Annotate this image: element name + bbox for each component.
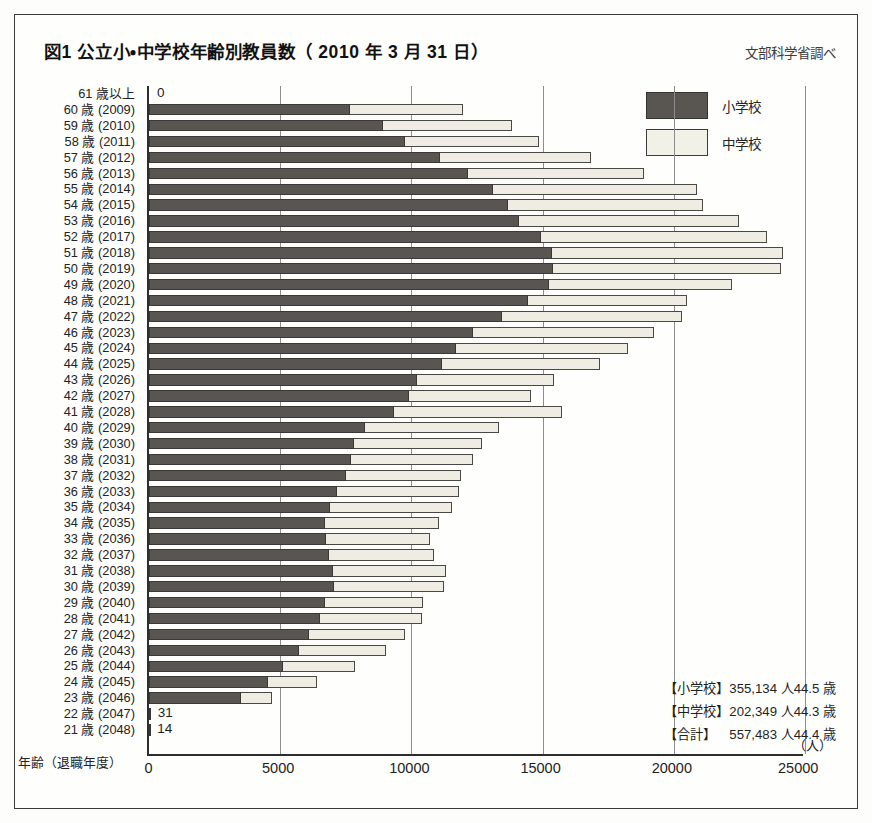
bar-row	[149, 563, 805, 579]
y-axis-label-11: 50 歳 (2019)	[64, 261, 135, 277]
y-axis-label-35: 26 歳 (2043)	[64, 643, 135, 659]
bar-segment-elementary	[149, 676, 268, 687]
y-axis-label-36: 25 歳 (2044)	[64, 658, 135, 674]
y-axis-label-39: 22 歳 (2047)	[64, 706, 135, 722]
bar-segment-elementary	[149, 263, 553, 274]
bar-row	[149, 261, 805, 277]
y-axis-caption: 年齢（退職年度）	[18, 752, 122, 771]
y-axis-label-33: 28 歳 (2041)	[64, 611, 135, 627]
bar-row	[149, 134, 805, 150]
bar-segment-elementary	[149, 311, 502, 322]
y-axis-label-16: 45 歳 (2024)	[64, 340, 135, 356]
y-axis-label-30: 31 歳 (2038)	[64, 563, 135, 579]
bar-row	[149, 245, 805, 261]
bar-row	[149, 531, 805, 547]
bar-value-label: 31	[158, 705, 173, 720]
summary-count: 202,349 人	[729, 699, 793, 722]
y-axis-label-15: 46 歳 (2023)	[64, 325, 135, 341]
y-axis-label-26: 35 歳 (2034)	[64, 499, 135, 515]
y-axis-label-19: 42 歳 (2027)	[64, 388, 135, 404]
bar-row	[149, 658, 805, 674]
bar-segment-elementary	[149, 390, 409, 401]
bar-segment-elementary	[149, 374, 417, 385]
y-axis-label-32: 29 歳 (2040)	[64, 595, 135, 611]
bar-row	[149, 547, 805, 563]
bar-value-label: 14	[157, 721, 172, 736]
bar-segment-elementary	[149, 708, 151, 719]
bar-segment-elementary	[149, 470, 346, 481]
bar-segment-elementary	[149, 692, 241, 703]
y-axis-label-37: 24 歳 (2045)	[64, 674, 135, 690]
x-tick-label-5000: 5000	[262, 760, 294, 776]
bar-row	[149, 468, 805, 484]
summary-box: 【小学校】355,134 人44.5 歳【中学校】202,349 人44.3 歳…	[664, 676, 836, 745]
y-axis-label-3: 58 歳 (2011)	[65, 134, 135, 150]
summary-count: 355,134 人	[729, 676, 793, 699]
x-tick-label-0: 0	[145, 760, 153, 776]
bar-row	[149, 181, 805, 197]
bar-segment-elementary	[149, 327, 473, 338]
bar-segment-elementary	[149, 581, 334, 592]
bar-segment-elementary	[149, 613, 320, 624]
bar-segment-elementary	[149, 629, 309, 640]
bar-row	[149, 643, 805, 659]
y-axis-label-24: 37 歳 (2032)	[64, 468, 135, 484]
bar-segment-elementary	[149, 549, 329, 560]
summary-average-age: 44.5 歳	[794, 676, 836, 699]
bar-row	[149, 627, 805, 643]
bar-segment-elementary	[149, 438, 354, 449]
y-axis-label-13: 48 歳 (2021)	[64, 293, 135, 309]
bar-segment-elementary	[149, 136, 405, 147]
y-axis-label-18: 43 歳 (2026)	[64, 372, 135, 388]
bar-segment-elementary	[149, 184, 493, 195]
y-axis-label-31: 30 歳 (2039)	[64, 579, 135, 595]
bar-row	[149, 452, 805, 468]
summary-count: 557,483 人	[729, 722, 793, 745]
bar-segment-elementary	[149, 517, 325, 528]
bar-segment-elementary	[149, 597, 325, 608]
x-tick-label-25000: 25000	[778, 760, 818, 776]
bar-row	[149, 197, 805, 213]
y-axis-label-5: 56 歳 (2013)	[64, 166, 135, 182]
chart-page: 図1 公立小・中学校年齢別教員数（ 2010 年 3 月 31 日） 文部科学省…	[0, 0, 872, 823]
bar-value-label: 0	[157, 85, 165, 100]
summary-row: 【中学校】202,349 人44.3 歳	[664, 699, 836, 722]
y-axis-label-17: 44 歳 (2025)	[64, 356, 135, 372]
bar-row	[149, 277, 805, 293]
bar-row	[149, 404, 805, 420]
y-axis-label-1: 60 歳 (2009)	[64, 102, 135, 118]
bar-row	[149, 309, 805, 325]
bar-row	[149, 325, 805, 341]
bar-segment-elementary	[149, 454, 351, 465]
source-credit: 文部科学省調べ	[745, 42, 836, 62]
bar-row	[149, 611, 805, 627]
summary-row: 【合計】557,483 人44.4 歳	[664, 722, 836, 745]
bar-segment-elementary	[149, 502, 330, 513]
y-axis-label-7: 54 歳 (2015)	[64, 197, 135, 213]
bar-segment-elementary	[149, 247, 552, 258]
y-axis-label-12: 49 歳 (2020)	[64, 277, 135, 293]
bar-row	[149, 372, 805, 388]
bar-row	[149, 340, 805, 356]
summary-category: 【中学校】	[664, 699, 729, 722]
bar-row	[149, 229, 805, 245]
y-axis-label-9: 52 歳 (2017)	[64, 229, 135, 245]
bar-segment-elementary	[149, 199, 508, 210]
bar-row	[149, 499, 805, 515]
bar-segment-elementary	[149, 565, 333, 576]
y-axis-label-34: 27 歳 (2042)	[64, 627, 135, 643]
summary-table: 【小学校】355,134 人44.5 歳【中学校】202,349 人44.3 歳…	[664, 676, 836, 745]
y-axis-label-20: 41 歳 (2028)	[64, 404, 135, 420]
bar-row	[149, 579, 805, 595]
y-axis-label-29: 32 歳 (2037)	[64, 547, 135, 563]
bar-segment-elementary	[149, 152, 440, 163]
bar-row	[149, 118, 805, 134]
bar-row	[149, 388, 805, 404]
bar-segment-elementary	[149, 120, 383, 131]
bar-row	[149, 595, 805, 611]
y-axis-label-27: 34 歳 (2035)	[64, 515, 135, 531]
y-axis-label-10: 51 歳 (2018)	[64, 245, 135, 261]
summary-row: 【小学校】355,134 人44.5 歳	[664, 676, 836, 699]
bar-segment-elementary	[149, 422, 365, 433]
page-title: 図1 公立小・中学校年齢別教員数（ 2010 年 3 月 31 日）	[44, 38, 488, 63]
